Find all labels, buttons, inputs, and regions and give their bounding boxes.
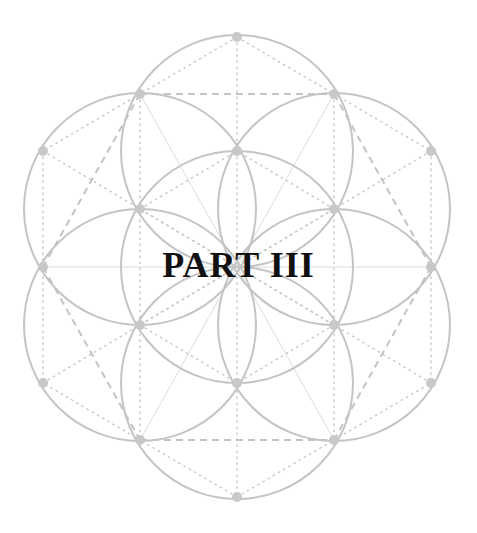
part-title: PART III: [0, 244, 477, 286]
